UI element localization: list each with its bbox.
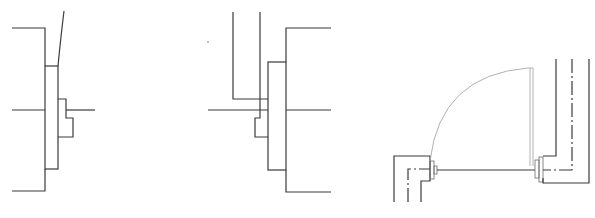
detail-a [12, 11, 95, 191]
detail-b [207, 12, 331, 192]
detail-c [394, 59, 589, 202]
technical-drawing [0, 0, 595, 218]
